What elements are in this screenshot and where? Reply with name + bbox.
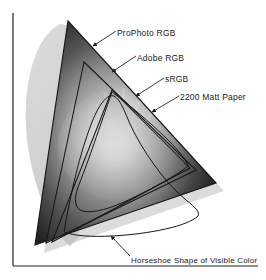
- leader-adobe: [112, 56, 136, 72]
- gamut-diagram: [0, 0, 266, 280]
- leader-horseshoe: [111, 236, 130, 256]
- caption-horseshoe-visible-color: Horseshoe Shape of Visible Color: [131, 257, 257, 265]
- label-adobe-rgb: Adobe RGB: [137, 54, 184, 63]
- color-gamut-figure: ProPhoto RGB Adobe RGB sRGB 2200 Matt Pa…: [0, 0, 266, 280]
- label-2200-matt-paper: 2200 Matt Paper: [180, 93, 246, 102]
- leader-srgb: [136, 78, 164, 96]
- leader-matt: [152, 96, 179, 112]
- label-srgb: sRGB: [165, 75, 188, 84]
- label-prophoto-rgb: ProPhoto RGB: [117, 29, 176, 38]
- leader-prophoto: [93, 31, 116, 46]
